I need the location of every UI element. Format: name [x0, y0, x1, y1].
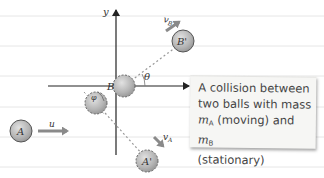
ball-b-final-label: B': [176, 36, 187, 47]
ball-b-label: B: [106, 81, 114, 92]
ball-a-final-label: A': [141, 156, 152, 167]
caption-box: A collision between two balls with mass …: [190, 75, 317, 148]
caption-line-4: (stationary): [197, 151, 311, 168]
velocity-va-arrow: [154, 137, 163, 146]
y-axis-label: y: [102, 6, 109, 17]
caption-line-2: two balls with mass: [198, 95, 312, 112]
ball-b-initial: [113, 75, 135, 97]
velocity-va-label: vA: [163, 132, 173, 143]
caption-line-3: mA (moving) and mB: [198, 111, 312, 152]
ball-a-label: A: [16, 126, 24, 137]
caption-line-1: A collision between: [198, 79, 312, 96]
phi-label: φ: [91, 93, 97, 102]
theta-label: θ: [144, 71, 150, 82]
velocity-u-label: u: [49, 119, 55, 129]
